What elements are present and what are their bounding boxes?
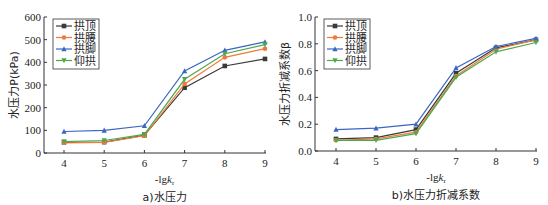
y-tick-label: 0.6 [298, 65, 312, 77]
x-tick-label: 6 [142, 157, 148, 169]
x-axis-label: -lgkr [155, 173, 175, 187]
x-tick-label: 9 [262, 157, 268, 169]
x-tick-label: 4 [61, 157, 67, 169]
x-tick-label: 7 [453, 155, 459, 167]
y-tick-label: 0.8 [298, 38, 312, 50]
y-tick-label: 100 [25, 124, 42, 136]
figure-caption: b)水压力折减系数 [392, 188, 480, 202]
y-tick-label: 500 [25, 34, 42, 46]
x-tick-label: 8 [222, 157, 228, 169]
series-2-marker [453, 65, 458, 70]
legend-0-marker [333, 24, 338, 29]
x-axis-label: -lgkr [426, 171, 446, 185]
y-tick-label: 400 [25, 56, 42, 68]
x-tick-label: 4 [333, 155, 339, 167]
x-tick-label: 8 [493, 155, 499, 167]
series-line-0 [64, 59, 265, 142]
y-axis-label: 水压力P(kPa) [8, 51, 21, 118]
y-tick-label: 0 [36, 147, 42, 159]
series-3-marker [222, 51, 227, 56]
legend-label: 仰拱 [345, 54, 367, 68]
x-tick-label: 7 [182, 157, 188, 169]
series-2-marker [182, 68, 187, 73]
x-tick-label: 9 [533, 155, 539, 167]
legend-1-marker [333, 35, 338, 40]
series-3-marker [493, 50, 498, 55]
chart-reduction-coefficient: 0.00.20.40.60.81.0456789-lgkr水压力折减系数βb)水… [278, 11, 539, 202]
chart-water-pressure: 0100200300400500600456789-lgkr水压力P(kPa)a… [8, 11, 268, 204]
x-tick-label: 6 [413, 155, 419, 167]
y-tick-label: 0.0 [298, 145, 312, 157]
y-axis-label: 水压力折减系数β [278, 42, 292, 126]
series-0-marker [223, 64, 228, 69]
y-tick-label: 600 [25, 11, 42, 23]
figure: 0100200300400500600456789-lgkr水压力P(kPa)a… [0, 0, 548, 205]
y-tick-label: 0.2 [298, 118, 312, 130]
x-tick-label: 5 [373, 155, 379, 167]
legend-0-marker [62, 24, 67, 29]
series-0-marker [263, 57, 268, 62]
legend-1-marker [62, 35, 67, 40]
legend-label: 仰拱 [74, 54, 96, 68]
y-tick-label: 0.4 [298, 91, 312, 103]
y-tick-label: 200 [25, 102, 42, 114]
x-tick-label: 5 [101, 157, 107, 169]
y-tick-label: 300 [25, 79, 42, 91]
y-tick-label: 1.0 [298, 11, 312, 23]
figure-caption: a)水压力 [142, 191, 186, 204]
